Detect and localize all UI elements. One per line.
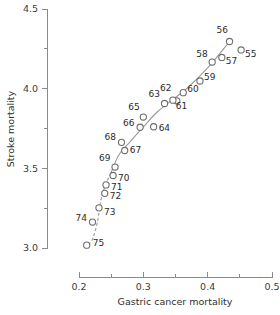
data-point-65[interactable] [140,114,146,120]
data-point-label-67: 67 [130,145,141,155]
y-tick-label-4.0: 4.0 [23,83,38,94]
data-point-58[interactable] [209,59,215,65]
y-axis-group: 3.03.54.04.5 Stroke mortality [5,3,48,253]
data-point-label-61: 61 [176,101,187,111]
data-point-71[interactable] [103,182,109,188]
data-point-label-69: 69 [99,153,111,163]
x-axis-minor-ticks [111,274,240,278]
data-point-label-64: 64 [159,123,171,133]
data-point-55[interactable] [238,47,244,53]
data-point-74[interactable] [89,219,95,225]
data-point-57[interactable] [219,54,225,60]
data-point-label-60: 60 [187,84,199,94]
data-point-label-72: 72 [110,191,121,201]
y-axis-title: Stroke mortality [5,90,16,167]
data-point-69[interactable] [112,164,118,170]
data-point-68[interactable] [118,139,124,145]
data-point-label-57: 57 [226,56,237,66]
data-point-63[interactable] [161,100,167,106]
x-tick-label-0.4: 0.4 [200,281,215,292]
y-tick-label-3.0: 3.0 [23,242,38,253]
data-point-label-73: 73 [104,207,115,217]
data-point-66[interactable] [137,124,143,130]
data-point-label-group: 5556575859606162636465666768697071727374… [76,25,257,249]
data-point-label-58: 58 [196,49,208,59]
data-point-72[interactable] [102,190,108,196]
data-point-64[interactable] [151,124,157,130]
data-point-70[interactable] [110,172,116,178]
data-point-60[interactable] [180,90,186,96]
data-point-label-56: 56 [217,25,229,35]
data-point-label-63: 63 [149,89,160,99]
data-point-75[interactable] [84,242,90,248]
scatter-plot-figure: 3.03.54.04.5 Stroke mortality 0.20.30.40… [0,0,280,315]
data-point-label-75: 75 [93,238,104,248]
y-tick-label-4.5: 4.5 [23,3,38,14]
chart-canvas: 3.03.54.04.5 Stroke mortality 0.20.30.40… [0,0,280,315]
data-point-label-65: 65 [128,102,139,112]
x-tick-label-0.2: 0.2 [71,281,86,292]
x-axis-title: Gastric cancer mortality [118,296,233,307]
x-axis-tick-labels: 0.20.30.40.5 [71,281,279,292]
y-axis-minor-ticks [44,49,48,208]
data-point-label-59: 59 [204,72,216,82]
data-point-label-62: 62 [160,83,171,93]
data-point-label-74: 74 [76,213,88,223]
data-point-56[interactable] [226,38,232,44]
y-tick-label-3.5: 3.5 [23,163,38,174]
data-point-67[interactable] [122,147,128,153]
data-point-label-66: 66 [123,118,135,128]
x-tick-label-0.3: 0.3 [136,281,151,292]
data-point-label-68: 68 [104,132,116,142]
data-point-label-55: 55 [245,49,256,59]
data-point-73[interactable] [96,205,102,211]
x-axis-group: 0.20.30.40.5 Gastric cancer mortality [71,272,279,307]
x-tick-label-0.5: 0.5 [264,281,279,292]
y-axis-tick-labels: 3.03.54.04.5 [23,3,38,253]
